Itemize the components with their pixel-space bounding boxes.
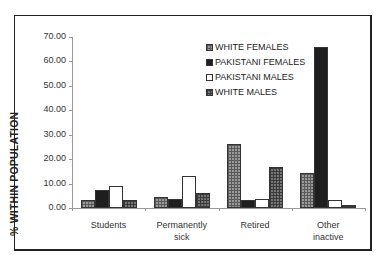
legend-item-white-males: WHITE MALES <box>206 85 305 100</box>
x-category-label: Permanentlysick <box>145 219 218 243</box>
bar-white-females <box>81 200 95 208</box>
bar-white-females <box>227 144 241 208</box>
y-axis-line <box>72 37 73 209</box>
legend-item-white-females: WHITE FEMALES <box>206 40 305 55</box>
y-tick-label: 60.00 <box>22 55 66 65</box>
legend: WHITE FEMALESPAKISTANI FEMALESPAKISTANI … <box>206 40 305 100</box>
y-tick-label: 70.00 <box>22 31 66 41</box>
legend-label: PAKISTANI FEMALES <box>215 55 305 70</box>
bar-pakistani-females <box>95 190 109 208</box>
legend-label: PAKISTANI MALES <box>215 70 294 85</box>
bar-pakistani-males <box>328 200 342 208</box>
legend-label: WHITE FEMALES <box>215 40 289 55</box>
bar-pakistani-males <box>255 199 269 208</box>
bar-pakistani-females <box>241 200 255 208</box>
bar-pakistani-females <box>314 47 328 208</box>
x-category-label: Otherinactive <box>292 219 365 243</box>
x-axis-line <box>72 208 365 209</box>
x-category-label: Retired <box>219 219 292 231</box>
y-tick-label: 10.00 <box>22 178 66 188</box>
y-tick-label: 50.00 <box>22 80 66 90</box>
bar-pakistani-females <box>168 199 182 208</box>
y-tick-label: 0.00 <box>22 202 66 212</box>
legend-label: WHITE MALES <box>215 85 277 100</box>
bar-pakistani-males <box>182 176 196 208</box>
legend-swatch-icon <box>206 59 213 66</box>
legend-swatch-icon <box>206 74 213 81</box>
bar-pakistani-males <box>109 186 123 208</box>
legend-swatch-icon <box>206 89 213 96</box>
bar-white-males <box>342 205 356 208</box>
x-category-label: Students <box>72 219 145 231</box>
y-tick-label: 20.00 <box>22 153 66 163</box>
bar-white-males <box>123 200 137 208</box>
x-tick-mark <box>365 208 366 211</box>
y-tick-label: 30.00 <box>22 129 66 139</box>
legend-swatch-icon <box>206 44 213 51</box>
y-axis-title: % WITHIN POPULATION <box>8 112 20 236</box>
bar-white-females <box>300 173 314 208</box>
legend-item-pakistani-males: PAKISTANI MALES <box>206 70 305 85</box>
bar-white-males <box>196 193 210 208</box>
bar-white-males <box>269 167 283 208</box>
legend-item-pakistani-females: PAKISTANI FEMALES <box>206 55 305 70</box>
y-tick-label: 40.00 <box>22 104 66 114</box>
bar-white-females <box>154 197 168 208</box>
